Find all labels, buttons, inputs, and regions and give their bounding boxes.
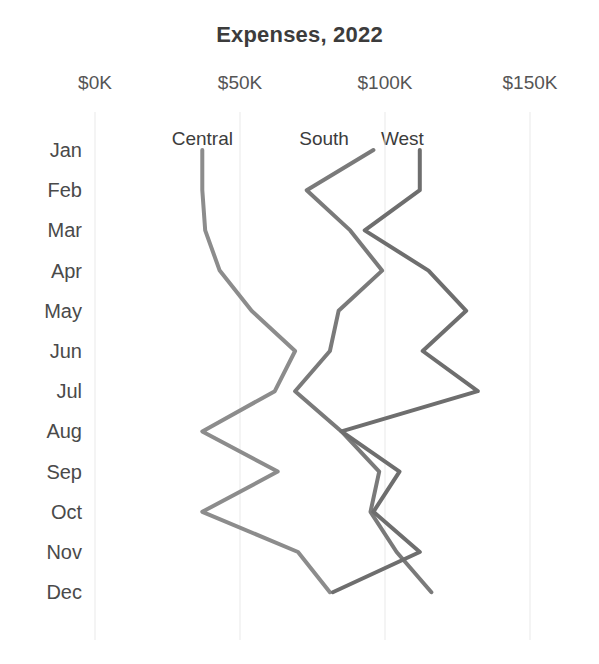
series-line-south: [295, 150, 431, 592]
expenses-line-chart: Expenses, 2022 $0K$50K$100K$150K JanFebM…: [0, 0, 599, 664]
gridlines: [95, 112, 530, 640]
series-lines: [202, 150, 478, 592]
plot-area: [0, 0, 599, 664]
series-line-west: [333, 150, 478, 592]
